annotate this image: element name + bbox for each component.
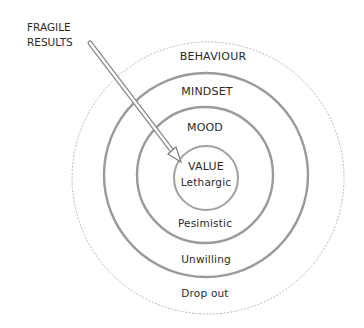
annotation-line-1: FRAGILE [27, 20, 73, 35]
ring-label-mindset: MINDSET [181, 85, 233, 98]
ring-label-value: VALUE [188, 160, 224, 173]
ring-label-mood: MOOD [187, 121, 223, 134]
outcome-drop-out: Drop out [181, 287, 228, 299]
annotation-label: FRAGILE RESULTS [27, 20, 73, 50]
annotation-line-2: RESULTS [27, 35, 73, 50]
outcome-pesimistic: Pesimistic [178, 217, 232, 229]
ring-label-behaviour: BEHAVIOUR [180, 50, 247, 63]
outcome-unwilling: Unwilling [181, 253, 231, 265]
outcome-lethargic: Lethargic [181, 176, 232, 188]
arrow-icon [90, 43, 181, 162]
